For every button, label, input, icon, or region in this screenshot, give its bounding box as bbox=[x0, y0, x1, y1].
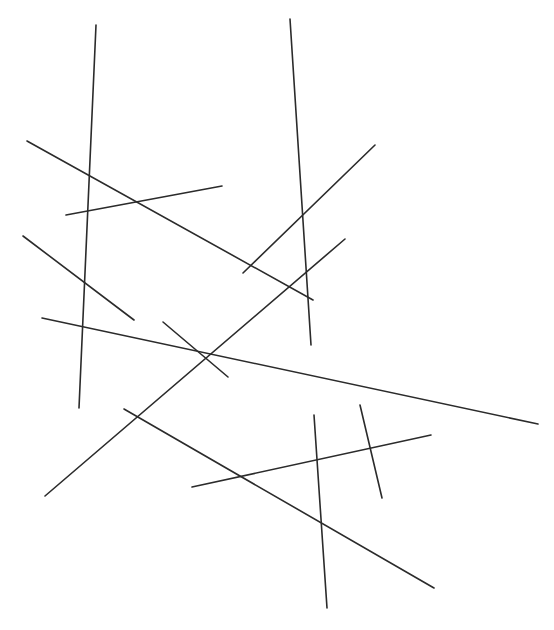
line-figure-canvas bbox=[0, 0, 554, 630]
line-figure-container bbox=[0, 0, 554, 630]
